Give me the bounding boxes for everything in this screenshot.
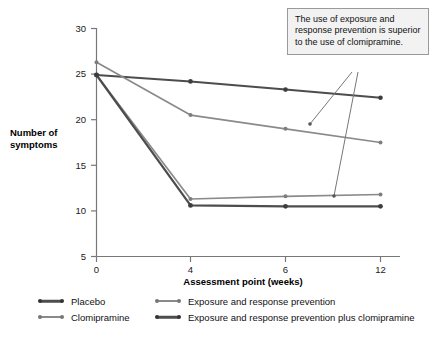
legend-label-placebo: Placebo — [71, 296, 105, 307]
series-layer — [94, 60, 383, 209]
legend-swatch-icon-erp-plus-clomipramine — [155, 312, 181, 323]
x-tick-label-0: 0 — [94, 264, 99, 275]
data-point — [284, 127, 288, 131]
legend-item-placebo[interactable]: Placebo — [38, 294, 105, 308]
axes — [97, 28, 401, 257]
x-tick-label-6: 6 — [283, 264, 288, 275]
legend-label-erp: Exposure and response prevention — [188, 296, 335, 307]
data-point — [283, 204, 288, 209]
data-point — [284, 194, 288, 198]
y-axis-title-line2: symptoms — [10, 139, 80, 151]
y-tick-label-10: 10 — [75, 205, 86, 216]
data-point — [188, 79, 193, 84]
x-axis-title: Assessment point (weeks) — [183, 276, 302, 287]
legend-label-erp-plus-clomipramine: Exposure and response prevention plus cl… — [188, 312, 415, 323]
data-point — [94, 73, 99, 78]
y-tick-label-15: 15 — [75, 160, 86, 171]
data-point — [378, 96, 383, 101]
data-point — [379, 193, 383, 197]
leader-line-upper — [310, 72, 352, 124]
x-tick-label-12: 12 — [375, 264, 386, 275]
y-axis-title-line1: Number of — [10, 127, 80, 139]
data-point — [189, 113, 193, 117]
chart-figure: 30 25 20 15 10 5 0 4 6 12 Assessment poi… — [0, 0, 441, 343]
legend-swatch-icon-clomipramine — [38, 312, 64, 323]
leader-line-lower-tip — [332, 194, 336, 198]
y-tick-label-30: 30 — [75, 23, 86, 34]
data-point — [188, 203, 193, 208]
legend-item-clomipramine[interactable]: Clomipramine — [38, 310, 130, 324]
legend-item-erp[interactable]: Exposure and response prevention — [155, 294, 335, 308]
y-axis-title: Number of symptoms — [10, 127, 80, 150]
y-tick-label-25: 25 — [75, 68, 86, 79]
y-tick-label-20: 20 — [75, 114, 86, 125]
data-point — [378, 204, 383, 209]
data-point — [379, 141, 383, 145]
annotation-callout: The use of exposure and response prevent… — [287, 8, 429, 55]
series-placebo — [94, 73, 383, 100]
x-ticks: 0 4 6 12 — [94, 257, 386, 275]
legend-item-erp-plus-clomipramine[interactable]: Exposure and response prevention plus cl… — [155, 310, 415, 324]
x-tick-label-4: 4 — [188, 264, 193, 275]
chart-legend: Placebo Clomipramine Exposure and respon… — [0, 292, 441, 337]
data-point — [95, 60, 99, 64]
legend-swatch-icon-placebo — [38, 296, 64, 307]
leader-line-upper-tip — [308, 122, 312, 126]
data-point — [189, 197, 193, 201]
legend-swatch-icon-erp — [155, 296, 181, 307]
legend-label-clomipramine: Clomipramine — [71, 312, 130, 323]
data-point — [283, 87, 288, 92]
series-exposure-and-response-prevention-plus-clomipramine — [94, 73, 383, 209]
y-tick-label-5: 5 — [81, 251, 86, 262]
